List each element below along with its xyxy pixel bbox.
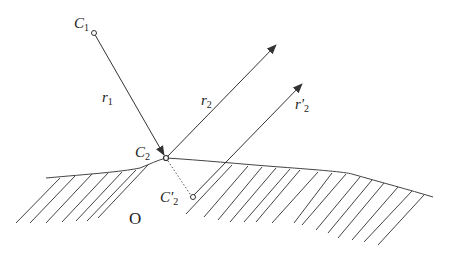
point-c2-prime — [191, 195, 196, 200]
right-hatching — [186, 165, 424, 245]
label-c2: C2 — [135, 144, 150, 162]
label-r2-prime: r'2 — [295, 96, 309, 114]
label-region-o: O — [129, 209, 141, 228]
ray-r2 — [166, 45, 276, 158]
diagram-canvas: C1 r1 r2 r'2 C2 C'2 O — [0, 0, 453, 255]
label-r1: r1 — [102, 89, 113, 107]
label-r2: r2 — [201, 92, 212, 110]
label-c2-prime: C'2 — [160, 189, 178, 207]
point-c2 — [164, 156, 169, 161]
point-c1 — [92, 31, 97, 36]
label-c1: C1 — [74, 15, 89, 33]
